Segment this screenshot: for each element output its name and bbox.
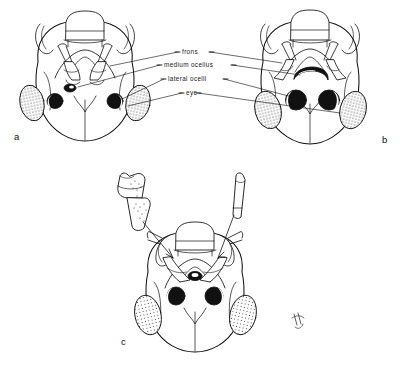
label-eye: eye bbox=[186, 89, 197, 96]
panel-letter-a: a bbox=[14, 131, 19, 142]
panel-a-head bbox=[17, 11, 154, 141]
panel-b-head bbox=[251, 10, 370, 144]
scale-mark bbox=[292, 313, 304, 328]
panel-letter-c: c bbox=[121, 336, 126, 347]
label-lateral-ocelli: lateral ocelli bbox=[168, 75, 207, 82]
label-medium-ocellus: medium ocellus bbox=[164, 61, 213, 68]
illustration-canvas bbox=[0, 0, 405, 379]
panel-letter-b: b bbox=[382, 134, 387, 145]
panel-c-head bbox=[131, 222, 260, 352]
figure-plate: frons medium ocellus lateral ocelli eye … bbox=[0, 0, 405, 379]
label-frons: frons bbox=[182, 48, 198, 55]
